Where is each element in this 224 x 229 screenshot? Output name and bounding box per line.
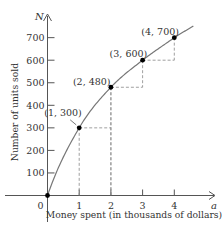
point-label: (2, 480) — [73, 76, 111, 87]
y-axis-variable: N — [34, 11, 45, 22]
data-point — [77, 125, 82, 130]
chart: 01234 100200300400500600700 (1, 300)(2, … — [0, 0, 224, 229]
axes — [5, 14, 215, 222]
x-tick-label: 0 — [37, 200, 43, 211]
dashed-guides — [79, 38, 174, 196]
data-points: (1, 300)(2, 480)(3, 600)(4, 700) — [44, 26, 179, 198]
y-ticks: 100200300400500600700 — [26, 32, 54, 178]
y-axis-title: Number of units sold — [9, 63, 20, 161]
y-tick-label: 100 — [26, 167, 44, 178]
y-tick-label: 200 — [26, 145, 44, 156]
data-point — [45, 193, 50, 198]
pointer-line — [70, 120, 76, 125]
y-tick-label: 300 — [26, 122, 44, 133]
x-ticks: 01234 — [37, 190, 177, 211]
x-axis-title: Money spent (in thousands of dollars) — [46, 209, 222, 220]
y-tick-label: 700 — [26, 32, 44, 43]
point-label: (3, 600) — [110, 48, 148, 59]
point-label: (4, 700) — [141, 26, 179, 37]
y-tick-label: 500 — [26, 77, 44, 88]
y-tick-label: 400 — [26, 100, 44, 111]
y-tick-label: 600 — [26, 55, 44, 66]
point-label: (1, 300) — [44, 107, 82, 118]
